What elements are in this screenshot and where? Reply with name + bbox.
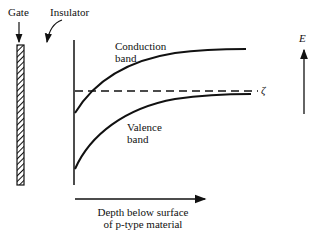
depth-axis-label: Depth below surface of p-type material (88, 206, 198, 230)
valence-band-label: Valence band (127, 121, 162, 145)
gate-bar (17, 45, 24, 185)
band-diagram (0, 0, 318, 234)
valence-band-curve (75, 94, 251, 169)
gate-label: Gate (8, 6, 29, 18)
fermi-level-label: ζ (261, 84, 265, 96)
insulator-arrow (47, 20, 62, 42)
conduction-band-label: Conduction band (115, 40, 166, 64)
energy-label: E (299, 32, 306, 44)
insulator-label: Insulator (50, 6, 89, 18)
